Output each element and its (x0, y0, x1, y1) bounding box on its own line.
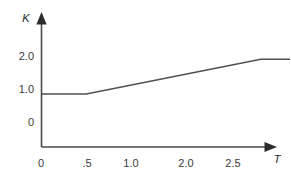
y-tick-label: 0 (28, 116, 34, 128)
x-tick-label: 2.5 (225, 157, 240, 169)
x-tick-label: .5 (82, 157, 91, 169)
y-axis-label: K (22, 12, 30, 24)
data-series-line (42, 59, 291, 94)
plot-area: K T 2.0 1.0 0 0 .5 1.0 2.0 2.5 (0, 0, 290, 177)
up-arrow-icon (36, 12, 46, 25)
chart-figure: K T 2.0 1.0 0 0 .5 1.0 2.0 2.5 (0, 0, 290, 177)
x-tick-label: 2.0 (178, 157, 193, 169)
right-arrow-icon (265, 142, 278, 152)
x-axis-label: T (274, 153, 282, 165)
x-tick-label: 0 (38, 157, 44, 169)
x-tick-label: 1.0 (123, 157, 138, 169)
y-tick-label: 1.0 (19, 83, 34, 95)
y-tick-label: 2.0 (19, 50, 34, 62)
